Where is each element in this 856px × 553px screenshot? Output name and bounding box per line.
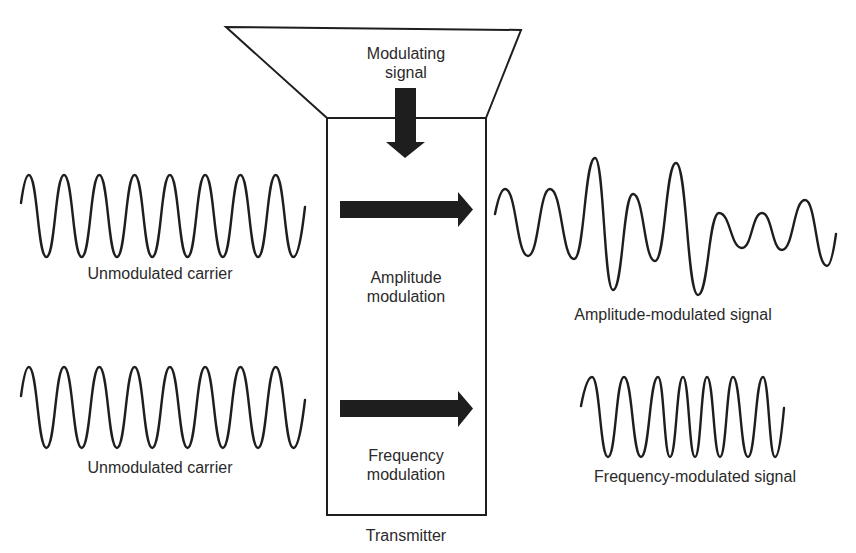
amplitude-modulation-line1: Amplitude [346, 268, 466, 287]
modulating-signal-line2: signal [346, 63, 466, 82]
arrow-down-icon [386, 88, 425, 158]
carrier-wave-top [21, 175, 305, 257]
carrier-wave-bottom [21, 367, 305, 448]
modulating-signal-line1: Modulating [346, 44, 466, 63]
transmitter-label: Transmitter [346, 526, 466, 545]
am-signal-wave [495, 158, 836, 295]
unmodulated-carrier-bottom-label: Unmodulated carrier [40, 458, 280, 477]
frequency-modulation-line2: modulation [346, 465, 466, 484]
fm-signal-label: Frequency-modulated signal [570, 467, 820, 486]
modulating-signal-label: Modulating signal [346, 44, 466, 82]
am-signal-label: Amplitude-modulated signal [548, 305, 798, 324]
arrow-right-icon [340, 391, 473, 427]
frequency-modulation-line1: Frequency [346, 446, 466, 465]
arrow-right-icon [340, 192, 473, 227]
frequency-modulation-label: Frequency modulation [346, 446, 466, 484]
unmodulated-carrier-top-label: Unmodulated carrier [40, 264, 280, 283]
amplitude-modulation-line2: modulation [346, 287, 466, 306]
amplitude-modulation-label: Amplitude modulation [346, 268, 466, 306]
fm-signal-wave [581, 377, 784, 457]
